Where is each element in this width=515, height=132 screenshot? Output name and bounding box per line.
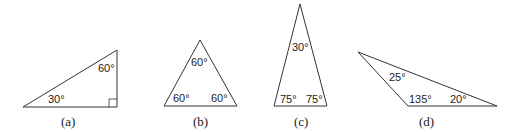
angle-label: 30° [292, 41, 309, 53]
angle-label: 20° [450, 93, 467, 105]
caption-a: (a) [61, 114, 75, 129]
caption-c: (c) [294, 114, 308, 129]
caption-d: (d) [419, 114, 434, 129]
angle-label: 60° [98, 62, 115, 74]
angle-label: 60° [191, 56, 208, 68]
triangle-a-shape [23, 50, 117, 107]
triangle-c-shape [274, 4, 327, 106]
triangle-a: 60° 30° (a) [23, 50, 117, 129]
triangles-diagram: 60° 30° (a) 60° 60° 60° (b) 30° 75° 75° … [0, 0, 515, 132]
angle-label: 75° [280, 93, 297, 105]
angle-label: 60° [211, 92, 228, 104]
triangle-d: 25° 135° 20° (d) [358, 52, 497, 129]
right-angle-marker [109, 99, 117, 107]
angle-label: 75° [306, 93, 323, 105]
caption-b: (b) [193, 114, 208, 129]
angle-label: 60° [173, 92, 190, 104]
angle-label: 30° [48, 93, 65, 105]
triangle-b: 60° 60° 60° (b) [164, 40, 237, 129]
angle-label: 25° [389, 71, 406, 83]
triangle-c: 30° 75° 75° (c) [274, 4, 327, 129]
angle-label: 135° [409, 93, 432, 105]
